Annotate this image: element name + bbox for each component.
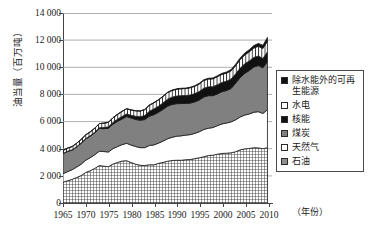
x-tick-mark — [86, 203, 87, 207]
legend-swatch-coal-icon — [281, 130, 288, 137]
y-tick-label-0: 0 — [15, 199, 61, 209]
x-tick-mark — [200, 203, 201, 207]
legend-item-nuclear[interactable]: 核能 — [281, 114, 360, 125]
legend-item-coal[interactable]: 煤炭 — [281, 128, 360, 139]
chart-legend: 除水能外的可再生能源 水电 核能 煤炭 天然气 石油 — [276, 70, 364, 172]
legend-label-renewables: 除水能外的可再生能源 — [292, 75, 360, 97]
area-bands — [63, 37, 267, 203]
y-tick-label-12000: 12 000 — [15, 36, 61, 46]
x-tick-mark — [177, 203, 178, 207]
x-tick-mark — [155, 203, 156, 207]
y-tick-label-14000: 14 000 — [15, 9, 61, 19]
legend-item-oil[interactable]: 石油 — [281, 156, 360, 167]
x-tick-mark — [269, 203, 270, 207]
plot-area — [63, 13, 272, 203]
legend-swatch-renewables-icon — [281, 77, 288, 84]
y-tick-label-10000: 10 000 — [15, 63, 61, 73]
legend-swatch-nuclear-icon — [281, 116, 288, 123]
legend-swatch-oil-icon — [281, 158, 288, 165]
y-tick-label-4000: 4 000 — [15, 145, 61, 155]
x-tick-mark — [109, 203, 110, 207]
x-tick-label-2010: 2010 — [249, 210, 289, 221]
x-tick-mark — [63, 203, 64, 207]
legend-swatch-gas-icon — [281, 144, 288, 151]
x-axis-title: （年份） — [292, 205, 328, 218]
legend-label-gas: 天然气 — [292, 142, 319, 153]
stacked-area-plot — [63, 13, 272, 203]
legend-item-renewables[interactable]: 除水能外的可再生能源 — [281, 75, 360, 97]
legend-label-hydro: 水电 — [292, 100, 310, 111]
chart-container: 油当量（百万吨） 14 000 12 000 10 000 8 000 6 00… — [0, 0, 369, 234]
legend-item-hydro[interactable]: 水电 — [281, 100, 360, 111]
legend-label-oil: 石油 — [292, 156, 310, 167]
legend-item-gas[interactable]: 天然气 — [281, 142, 360, 153]
x-axis-line — [63, 203, 273, 204]
legend-label-nuclear: 核能 — [292, 114, 310, 125]
y-tick-label-6000: 6 000 — [15, 117, 61, 127]
y-tick-label-8000: 8 000 — [15, 90, 61, 100]
legend-swatch-hydro-icon — [281, 102, 288, 109]
x-tick-mark — [132, 203, 133, 207]
legend-label-coal: 煤炭 — [292, 128, 310, 139]
x-tick-mark — [246, 203, 247, 207]
y-tick-label-2000: 2 000 — [15, 172, 61, 182]
x-tick-mark — [223, 203, 224, 207]
